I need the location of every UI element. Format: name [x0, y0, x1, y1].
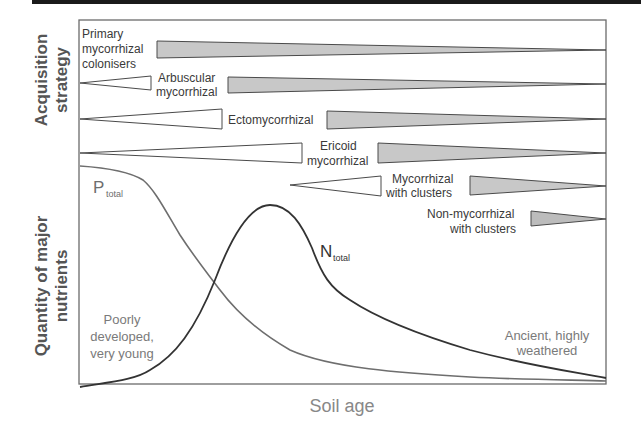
curve-n-total: [80, 205, 606, 387]
wedge-arbuscular-declining: [228, 77, 606, 93]
wedge-primary-declining: [157, 41, 606, 58]
annotation-young-soil: Poorly developed, very young: [90, 312, 154, 361]
label-ecto: Ectomycorrhizal: [228, 113, 313, 127]
wedge-ericoid-rising: [80, 143, 302, 163]
n-total-sub: total: [333, 253, 350, 263]
old-line1: Ancient, highly: [505, 328, 590, 343]
y-axis-upper-title: Acquisition strategy: [32, 34, 71, 127]
label-ecto-line1: Ectomycorrhizal: [228, 113, 313, 127]
young-line2: developed,: [90, 329, 154, 344]
label-nonmyc-clusters: Non-mycorrhizal with clusters: [427, 207, 516, 236]
young-line1: Poorly: [104, 312, 141, 327]
label-myc-clusters-line1: Mycorrhizal: [392, 172, 453, 186]
label-p-total: P total: [93, 178, 123, 199]
label-ericoid-line1: Ericoid: [320, 139, 357, 153]
x-axis-title: Soil age: [309, 396, 374, 416]
label-arbuscular-line1: Arbuscular: [158, 71, 215, 85]
wedge-ecto-rising: [80, 109, 222, 129]
p-total-sub: total: [106, 189, 123, 199]
wedge-myc-clusters-declining: [470, 176, 606, 195]
diagram: Acquisition strategy Quantity of major n…: [0, 0, 641, 439]
annotation-old-soil: Ancient, highly weathered: [505, 328, 590, 358]
label-n-total: N total: [320, 242, 350, 263]
label-nonmyc-clusters-line1: Non-mycorrhizal: [427, 207, 514, 221]
label-primary-line1: Primary: [82, 27, 123, 41]
n-total-main: N: [320, 242, 332, 261]
y-upper-title-line2: strategy: [52, 46, 71, 113]
y-lower-title-line1: Quantity of major: [32, 215, 51, 356]
wedge-nonmyc-clusters-declining: [531, 211, 606, 226]
wedge-ericoid-declining: [378, 143, 606, 163]
label-primary-line3: colonisers: [82, 57, 136, 71]
label-arbuscular-line2: mycorrhizal: [156, 85, 217, 99]
label-ericoid-line2: mycorrhizal: [307, 154, 368, 168]
y-axis-lower-title: Quantity of major nutrients: [32, 215, 71, 356]
y-upper-title-line1: Acquisition: [32, 34, 51, 127]
young-line3: very young: [90, 346, 154, 361]
label-ericoid: Ericoid mycorrhizal: [307, 139, 368, 168]
label-primary-line2: mycorrhizal: [82, 42, 143, 56]
label-primary: Primary mycorrhizal colonisers: [82, 27, 143, 71]
label-nonmyc-clusters-line2: with clusters: [449, 222, 516, 236]
y-lower-title-line2: nutrients: [52, 250, 71, 323]
p-total-main: P: [93, 178, 104, 197]
old-line2: weathered: [516, 343, 578, 358]
label-myc-clusters-line2: with clusters: [385, 186, 452, 200]
wedge-ecto-declining: [327, 111, 606, 129]
wedge-myc-clusters-rising: [290, 176, 381, 196]
wedge-arbuscular-rising: [80, 76, 151, 90]
label-myc-clusters: Mycorrhizal with clusters: [385, 172, 453, 200]
label-arbuscular: Arbuscular mycorrhizal: [156, 71, 217, 99]
